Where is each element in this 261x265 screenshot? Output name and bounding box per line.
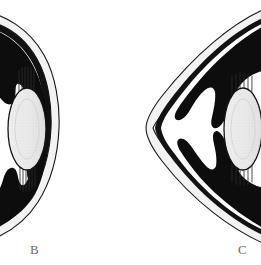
eye-cross-section-diagram	[0, 0, 261, 265]
panel-label-c: C	[238, 243, 247, 256]
figure-plate: B C	[0, 0, 261, 265]
panel-label-b: B	[30, 243, 39, 256]
